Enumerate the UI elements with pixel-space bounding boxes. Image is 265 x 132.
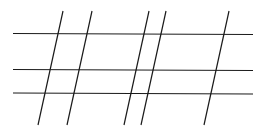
line-diagram: [0, 0, 265, 132]
transversal-line-2: [67, 11, 92, 125]
transversal-lines: [38, 11, 229, 125]
horizontal-line-3: [13, 93, 253, 94]
transversal-line-5: [204, 11, 229, 125]
transversal-line-1: [38, 11, 63, 125]
horizontal-line-1: [13, 34, 253, 35]
horizontal-line-2: [13, 70, 253, 71]
diagram-svg: [0, 0, 265, 132]
